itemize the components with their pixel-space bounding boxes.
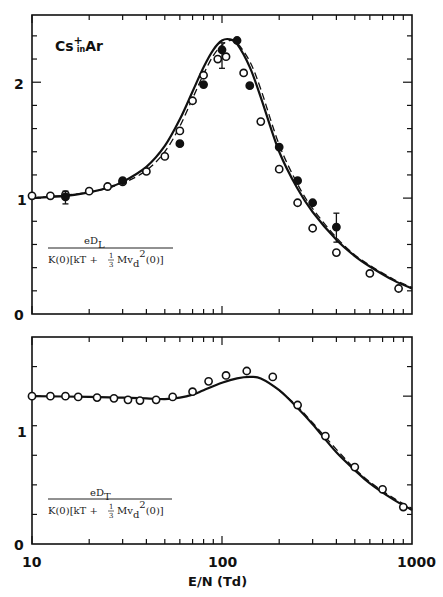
open-data-point [351, 464, 358, 471]
open-data-point [136, 397, 143, 404]
open-data-point [240, 69, 247, 76]
top-ytick-label-1: 1 [17, 192, 27, 208]
bottom-series [28, 367, 412, 510]
bottom-ylabel: eDT K(0)[kT + 1 3 Mvd2(0)] [48, 487, 172, 520]
open-data-point [395, 285, 402, 292]
frac-three: 3 [109, 261, 113, 269]
open-data-point [222, 53, 229, 60]
xtick-label-10: 10 [22, 554, 42, 570]
open-data-point [153, 396, 160, 403]
top-ylabel-denominator: K(0)[kT + [48, 254, 98, 265]
curve-theory_solid [32, 39, 412, 289]
open-data-point [75, 393, 82, 400]
filled-data-point [246, 82, 253, 89]
open-data-point [366, 270, 373, 277]
open-data-point [214, 55, 221, 62]
xtick-label-1000: 1000 [397, 554, 436, 570]
top-y-ticks [32, 36, 412, 291]
top-ytick-label-0: 0 [14, 307, 24, 323]
filled-data-point [309, 199, 316, 206]
open-data-point [379, 486, 386, 493]
filled-data-point [176, 140, 183, 147]
open-data-point [205, 378, 212, 385]
filled-data-point [218, 46, 225, 53]
open-data-point [269, 373, 276, 380]
filled-data-point [62, 193, 69, 200]
filled-data-point [119, 177, 126, 184]
open-data-point [294, 199, 301, 206]
figure: Cs+inAr 2 1 0 eDL K(0)[kT + 1 3 Mvd2(0)]… [0, 0, 443, 597]
filled-data-point [276, 144, 283, 151]
open-data-point [47, 393, 54, 400]
frac-one: 1 [109, 503, 113, 511]
filled-data-point [333, 223, 340, 230]
open-data-point [189, 388, 196, 395]
frac-one: 1 [109, 252, 113, 260]
open-data-point [200, 72, 207, 79]
open-data-point [161, 153, 168, 160]
top-ylabel: eDL K(0)[kT + 1 3 Mvd2(0)] [48, 235, 173, 269]
open-data-point [28, 192, 35, 199]
panel-title: Cs+inAr [55, 34, 103, 54]
top-ylabel-den-rest: Mvd2(0)] [117, 248, 164, 269]
open-data-point [222, 372, 229, 379]
curve-theory_dashed [32, 40, 412, 287]
filled-data-point [200, 81, 207, 88]
open-data-point [86, 188, 93, 195]
top-ytick-label-2: 2 [14, 76, 24, 92]
curve-theory_solid [32, 377, 412, 510]
open-data-point [333, 249, 340, 256]
open-data-point [243, 367, 250, 374]
open-data-point [93, 394, 100, 401]
open-data-point [309, 225, 316, 232]
frac-three: 3 [109, 512, 113, 520]
bottom-ylabel-denominator: K(0)[kT + [48, 505, 98, 516]
bottom-ytick-label-0: 0 [14, 537, 24, 553]
open-data-point [400, 503, 407, 510]
filled-data-point [294, 177, 301, 184]
bottom-ylabel-den-rest: Mvd2(0)] [117, 499, 164, 520]
x-axis-title: E/N (Td) [188, 574, 247, 589]
open-data-point [62, 393, 69, 400]
bottom-ytick-label-1: 1 [17, 424, 27, 440]
open-data-point [294, 401, 301, 408]
top-panel: Cs+inAr 2 1 0 eDL K(0)[kT + 1 3 Mvd2(0)] [14, 15, 412, 323]
open-data-point [104, 183, 111, 190]
open-data-point [124, 396, 131, 403]
xtick-label-100: 100 [208, 554, 237, 570]
open-data-point [47, 192, 54, 199]
open-data-point [143, 168, 150, 175]
open-data-point [189, 97, 196, 104]
open-data-point [110, 395, 117, 402]
bottom-y-ticks [32, 367, 412, 515]
filled-data-point [233, 37, 240, 44]
bottom-ylabel-numerator: eDT [90, 487, 111, 502]
open-data-point [276, 166, 283, 173]
open-data-point [28, 393, 35, 400]
open-data-point [322, 432, 329, 439]
open-data-point [176, 127, 183, 134]
open-data-point [169, 393, 176, 400]
open-data-point [257, 118, 264, 125]
bottom-panel: 1 0 eDT K(0)[kT + 1 3 Mvd2(0)] [14, 337, 412, 553]
